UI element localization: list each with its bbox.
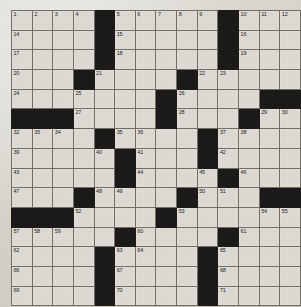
crossword-cell[interactable] — [32, 188, 53, 208]
crossword-cell[interactable] — [94, 109, 115, 129]
crossword-cell[interactable]: 4 — [73, 11, 94, 31]
crossword-cell[interactable] — [156, 129, 177, 149]
crossword-cell[interactable]: 49 — [115, 188, 136, 208]
crossword-cell[interactable] — [115, 89, 136, 109]
crossword-cell[interactable] — [259, 286, 280, 306]
crossword-cell[interactable] — [32, 266, 53, 286]
crossword-cell[interactable] — [177, 50, 198, 70]
crossword-cell[interactable] — [239, 266, 260, 286]
crossword-cell[interactable]: 38 — [239, 129, 260, 149]
crossword-cell[interactable] — [135, 50, 156, 70]
crossword-cell[interactable] — [156, 247, 177, 267]
crossword-cell[interactable]: 58 — [32, 227, 53, 247]
crossword-cell[interactable]: 71 — [218, 286, 239, 306]
crossword-cell[interactable] — [259, 50, 280, 70]
crossword-cell[interactable] — [156, 227, 177, 247]
crossword-cell[interactable]: 63 — [115, 247, 136, 267]
crossword-cell[interactable] — [197, 207, 218, 227]
crossword-cell[interactable]: 18 — [115, 50, 136, 70]
crossword-cell[interactable]: 21 — [94, 70, 115, 90]
crossword-cell[interactable]: 47 — [12, 188, 33, 208]
crossword-cell[interactable] — [259, 227, 280, 247]
crossword-cell[interactable]: 59 — [53, 227, 74, 247]
crossword-cell[interactable] — [53, 148, 74, 168]
crossword-cell[interactable] — [115, 70, 136, 90]
crossword-cell[interactable] — [53, 50, 74, 70]
crossword-cell[interactable] — [32, 50, 53, 70]
crossword-cell[interactable] — [177, 30, 198, 50]
crossword-cell[interactable]: 52 — [73, 207, 94, 227]
crossword-cell[interactable] — [73, 286, 94, 306]
crossword-cell[interactable]: 23 — [218, 70, 239, 90]
crossword-cell[interactable] — [239, 89, 260, 109]
crossword-cell[interactable]: 35 — [115, 129, 136, 149]
crossword-cell[interactable] — [239, 207, 260, 227]
crossword-cell[interactable] — [177, 227, 198, 247]
crossword-cell[interactable]: 27 — [73, 109, 94, 129]
crossword-cell[interactable] — [73, 247, 94, 267]
crossword-cell[interactable] — [135, 286, 156, 306]
crossword-cell[interactable] — [32, 247, 53, 267]
crossword-cell[interactable]: 25 — [73, 89, 94, 109]
crossword-cell[interactable] — [280, 247, 301, 267]
crossword-cell[interactable] — [280, 70, 301, 90]
crossword-cell[interactable] — [280, 148, 301, 168]
crossword-cell[interactable] — [32, 286, 53, 306]
crossword-cell[interactable] — [53, 89, 74, 109]
crossword-cell[interactable]: 14 — [12, 30, 33, 50]
crossword-cell[interactable]: 67 — [115, 266, 136, 286]
crossword-cell[interactable]: 34 — [53, 129, 74, 149]
crossword-cell[interactable] — [73, 30, 94, 50]
crossword-cell[interactable] — [177, 168, 198, 188]
crossword-cell[interactable] — [156, 50, 177, 70]
crossword-cell[interactable]: 33 — [32, 129, 53, 149]
crossword-cell[interactable] — [73, 148, 94, 168]
crossword-cell[interactable]: 32 — [12, 129, 33, 149]
crossword-cell[interactable] — [218, 109, 239, 129]
crossword-cell[interactable]: 36 — [135, 129, 156, 149]
crossword-cell[interactable]: 60 — [135, 227, 156, 247]
crossword-cell[interactable]: 30 — [280, 109, 301, 129]
crossword-puzzle[interactable]: 1234567891011121415161718192021222324252… — [11, 10, 301, 306]
crossword-cell[interactable] — [280, 266, 301, 286]
crossword-cell[interactable] — [239, 188, 260, 208]
crossword-cell[interactable] — [32, 148, 53, 168]
crossword-cell[interactable] — [94, 89, 115, 109]
crossword-cell[interactable] — [156, 266, 177, 286]
crossword-cell[interactable]: 22 — [197, 70, 218, 90]
crossword-cell[interactable]: 40 — [94, 148, 115, 168]
crossword-cell[interactable]: 26 — [177, 89, 198, 109]
crossword-cell[interactable]: 29 — [259, 109, 280, 129]
crossword-cell[interactable] — [280, 30, 301, 50]
crossword-cell[interactable]: 57 — [12, 227, 33, 247]
crossword-cell[interactable]: 28 — [177, 109, 198, 129]
crossword-cell[interactable] — [177, 148, 198, 168]
crossword-cell[interactable]: 1 — [12, 11, 33, 31]
crossword-cell[interactable] — [280, 50, 301, 70]
crossword-cell[interactable] — [177, 129, 198, 149]
crossword-cell[interactable]: 43 — [12, 168, 33, 188]
crossword-cell[interactable]: 9 — [197, 11, 218, 31]
crossword-cell[interactable] — [73, 227, 94, 247]
crossword-cell[interactable]: 62 — [12, 247, 33, 267]
crossword-cell[interactable] — [115, 109, 136, 129]
crossword-cell[interactable]: 51 — [218, 188, 239, 208]
crossword-cell[interactable]: 53 — [177, 207, 198, 227]
crossword-cell[interactable] — [218, 89, 239, 109]
crossword-cell[interactable] — [197, 227, 218, 247]
crossword-cell[interactable] — [156, 148, 177, 168]
crossword-cell[interactable] — [73, 129, 94, 149]
crossword-cell[interactable]: 66 — [12, 266, 33, 286]
crossword-cell[interactable] — [280, 227, 301, 247]
crossword-cell[interactable] — [259, 247, 280, 267]
crossword-cell[interactable] — [135, 207, 156, 227]
crossword-cell[interactable] — [53, 286, 74, 306]
crossword-cell[interactable]: 8 — [177, 11, 198, 31]
crossword-cell[interactable] — [239, 247, 260, 267]
crossword-cell[interactable]: 42 — [218, 148, 239, 168]
crossword-cell[interactable] — [259, 30, 280, 50]
crossword-cell[interactable]: 10 — [239, 11, 260, 31]
crossword-cell[interactable] — [135, 109, 156, 129]
crossword-cell[interactable] — [156, 30, 177, 50]
crossword-cell[interactable] — [53, 247, 74, 267]
